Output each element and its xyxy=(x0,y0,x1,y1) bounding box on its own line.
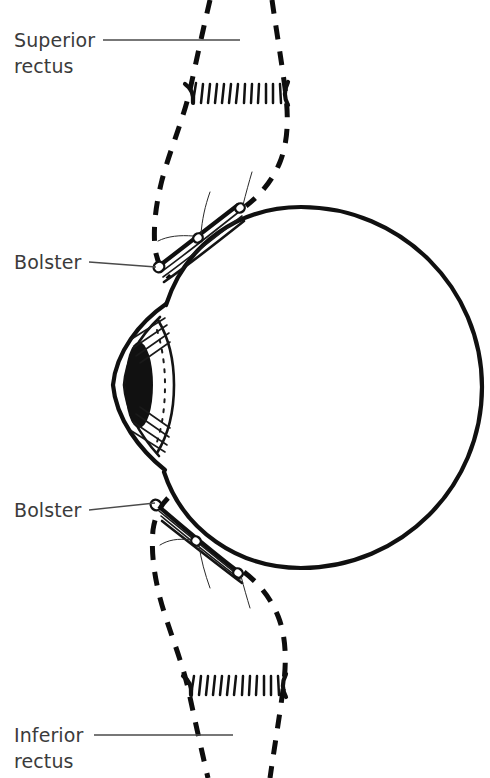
pupil xyxy=(125,342,153,428)
inferior-rectus-hatch-right-cap xyxy=(283,674,286,697)
label-inferior-rectus-line2: rectus xyxy=(14,750,74,772)
leader-bolster-upper xyxy=(89,262,156,267)
superior-rectus-cut-edge-hatching xyxy=(193,83,281,103)
label-superior-rectus: Superior rectus xyxy=(14,29,95,77)
inferior-rectus-cut-edge-hatching xyxy=(191,676,279,695)
label-inferior-rectus: Inferior rectus xyxy=(14,724,83,772)
bolster-upper-band-line-2 xyxy=(163,216,242,277)
label-bolster-upper: Bolster xyxy=(14,251,82,273)
cornea-superior-hatching xyxy=(130,318,170,363)
label-bolster-upper-text: Bolster xyxy=(14,251,82,273)
label-inferior-rectus-line1: Inferior xyxy=(14,724,83,746)
leader-bolster-lower xyxy=(89,503,155,510)
diagram-canvas: Superior rectus Bolster Bolster Inferior… xyxy=(0,0,490,778)
bolster-upper-thread-1 xyxy=(158,236,193,241)
inferior-rectus-hatch-left-cap xyxy=(183,676,191,695)
label-superior-rectus-line2: rectus xyxy=(14,55,74,77)
superior-rectus-hatch-right-cap xyxy=(285,82,288,105)
bolster-lower-thread-3 xyxy=(241,576,250,608)
cornea-group xyxy=(113,304,174,470)
bolster-upper-knot-proximal xyxy=(233,201,246,214)
label-bolster-lower-text: Bolster xyxy=(14,499,82,521)
eye-globe xyxy=(164,207,482,568)
bolster-upper xyxy=(152,172,252,282)
globe-outline xyxy=(164,207,482,568)
label-superior-rectus-line1: Superior xyxy=(14,29,95,51)
label-bolster-lower: Bolster xyxy=(14,499,82,521)
eye-surgery-diagram: Superior rectus Bolster Bolster Inferior… xyxy=(0,0,490,778)
